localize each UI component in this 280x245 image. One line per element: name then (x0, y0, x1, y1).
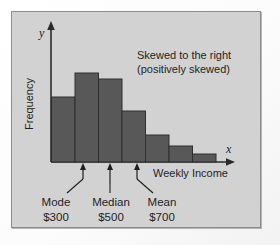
distribution-chart: y x Frequency Weekly Income Skewed to th… (12, 12, 262, 229)
annotation-line-1: Skewed to the right (137, 49, 231, 61)
x-axis-arrowhead (226, 158, 235, 166)
mean-label-name: Mean (148, 196, 177, 208)
histogram-bar (122, 111, 146, 162)
histogram-bar (169, 146, 193, 162)
histogram-bar (193, 154, 217, 162)
annotation-line-2: (positively skewed) (137, 63, 230, 75)
mode-leader-line (67, 179, 83, 193)
x-axis-title: Weekly Income (153, 167, 228, 179)
mean-label-value: $700 (149, 211, 175, 223)
median-label-name: Median (92, 196, 130, 208)
mode-label-name: Mode (42, 196, 71, 208)
mean-leader-line (137, 179, 153, 193)
histogram-bar (52, 97, 76, 162)
y-axis-title: Frequency (23, 78, 35, 130)
histogram-bar (99, 79, 123, 162)
y-axis-variable: y (38, 26, 45, 40)
x-axis-variable: x (225, 142, 232, 156)
mode-tick-arrowhead (80, 163, 86, 170)
illustration-panel: y x Frequency Weekly Income Skewed to th… (11, 11, 261, 228)
mode-label-value: $300 (43, 211, 69, 223)
y-axis-arrowhead (47, 21, 55, 30)
histogram-bar (146, 135, 170, 162)
mean-tick-arrowhead (134, 163, 140, 170)
figure-root: y x Frequency Weekly Income Skewed to th… (0, 0, 280, 245)
median-label-value: $500 (98, 211, 124, 223)
median-tick-arrowhead (107, 163, 113, 170)
histogram-bar (75, 73, 99, 162)
